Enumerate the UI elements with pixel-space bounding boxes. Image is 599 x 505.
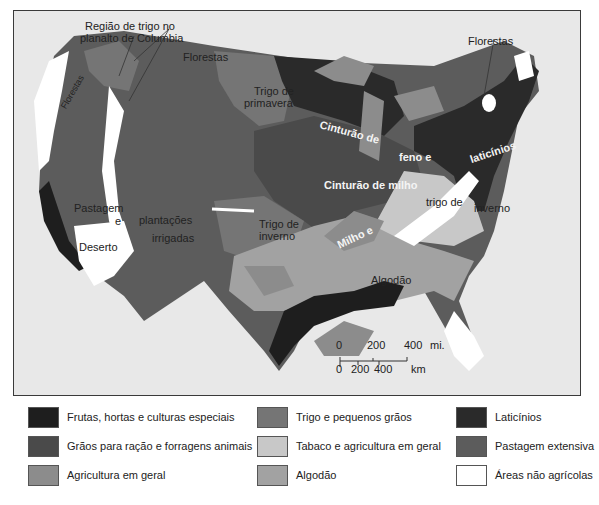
label-cinturao-milho: Cinturão de milho [324, 179, 418, 191]
scale-mi-200: 200 [367, 339, 385, 351]
label-columbia-2: planalto de Columbia [80, 32, 183, 44]
label-trigo-primavera-1: Trigo de [254, 85, 294, 97]
label-florestas-ne: Florestas [468, 35, 513, 47]
region-trigo-inverno-stripe [212, 209, 254, 211]
label-trigo-primavera-2: primavera [244, 97, 293, 109]
legend-item-laticinios: Laticínios [456, 406, 541, 428]
label-e: e [115, 215, 121, 227]
region-adirondack [482, 94, 496, 112]
scale-mi-0: 0 [336, 339, 342, 351]
scale-mi-400: 400 [404, 339, 422, 351]
legend-item-algodao: Algodão [257, 464, 336, 486]
map-frame: Região de trigo no planalto de Columbia … [13, 10, 581, 396]
legend-item-agricultura: Agricultura em geral [28, 464, 165, 486]
scale-km-unit: km [411, 363, 426, 375]
label-columbia-1: Região de trigo no [85, 20, 175, 32]
legend-item-tabaco: Tabaco e agricultura em geral [257, 435, 441, 457]
label-florestas-nw: Florestas [183, 51, 228, 63]
scale-km-0: 0 [336, 363, 342, 375]
label-inverno: inverno [474, 202, 510, 214]
label-trigo-de: trigo de [426, 196, 463, 208]
legend: Frutas, hortas e culturas especiais Grão… [0, 400, 599, 505]
label-plantacoes: plantações [139, 214, 192, 226]
legend-item-nao-agricolas: Áreas não agrícolas [456, 464, 593, 486]
legend-item-graos: Grãos para ração e forragens animais [28, 435, 252, 457]
label-trigo-inverno-1: Trigo de [259, 218, 299, 230]
label-deserto: Deserto [79, 241, 118, 253]
label-algodao: Algodão [371, 274, 411, 286]
label-feno-e: feno e [399, 151, 431, 163]
legend-item-frutas: Frutas, hortas e culturas especiais [28, 406, 235, 428]
label-trigo-inverno-2: inverno [259, 230, 295, 242]
scale-km-400: 400 [374, 363, 392, 375]
label-pastagem: Pastagem [74, 202, 124, 214]
scale-mi-unit: mi. [430, 339, 445, 351]
label-irrigadas: irrigadas [152, 232, 194, 244]
legend-item-trigo: Trigo e pequenos grãos [257, 406, 412, 428]
scale-km-200: 200 [351, 363, 369, 375]
legend-item-pastagem: Pastagem extensiva [456, 435, 594, 457]
